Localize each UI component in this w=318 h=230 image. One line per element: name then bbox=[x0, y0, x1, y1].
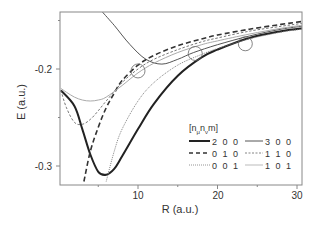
curve-101 bbox=[61, 25, 302, 101]
legend-label-001: 0 0 1 bbox=[212, 161, 240, 171]
y-tick-label: -0.3 bbox=[35, 161, 53, 172]
curve-001 bbox=[106, 29, 302, 181]
chart-canvas: 10 20 30 -0.2 -0.3 R (a.u.) E (a.u.) [nμ… bbox=[0, 0, 318, 230]
x-tick-label: 30 bbox=[291, 190, 303, 201]
legend: [nμnνm] 2 0 0 3 0 0 0 1 0 1 1 0 0 0 1 1 … bbox=[189, 123, 293, 171]
legend-label-010: 0 1 0 bbox=[212, 149, 240, 159]
legend-label-200: 2 0 0 bbox=[212, 137, 240, 147]
axis-ticks bbox=[56, 21, 297, 190]
y-axis-label: E (a.u.) bbox=[15, 84, 27, 120]
legend-label-300: 3 0 0 bbox=[265, 137, 293, 147]
plot-frame bbox=[60, 12, 302, 185]
y-tick-label: -0.2 bbox=[35, 64, 53, 75]
legend-title: [nμnνm] bbox=[189, 123, 218, 135]
x-tick-label: 20 bbox=[212, 190, 224, 201]
legend-label-101: 1 0 1 bbox=[265, 161, 293, 171]
x-tick-label: 10 bbox=[132, 190, 144, 201]
legend-label-110: 1 1 0 bbox=[265, 149, 293, 159]
curve-110 bbox=[61, 23, 302, 124]
x-axis-label: R (a.u.) bbox=[162, 203, 199, 215]
